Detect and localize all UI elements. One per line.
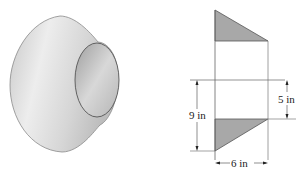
cross-section-diagram: 9 in 5 in 6 in [188,10,301,169]
figure-canvas: 9 in 5 in 6 in [0,0,304,180]
dimension-5in: 5 in [277,80,301,119]
top-shaded-triangle [215,10,268,41]
dimension-6in: 6 in [215,156,268,169]
dimension-label-5in: 5 in [278,93,295,105]
dimension-9in: 9 in [188,80,210,151]
dimension-label-6in: 6 in [231,157,248,169]
dimension-label-9in: 9 in [189,109,206,121]
cone-inner-opening [75,43,119,117]
cone-3d-render [10,16,119,152]
bottom-shaded-triangle [215,119,268,151]
